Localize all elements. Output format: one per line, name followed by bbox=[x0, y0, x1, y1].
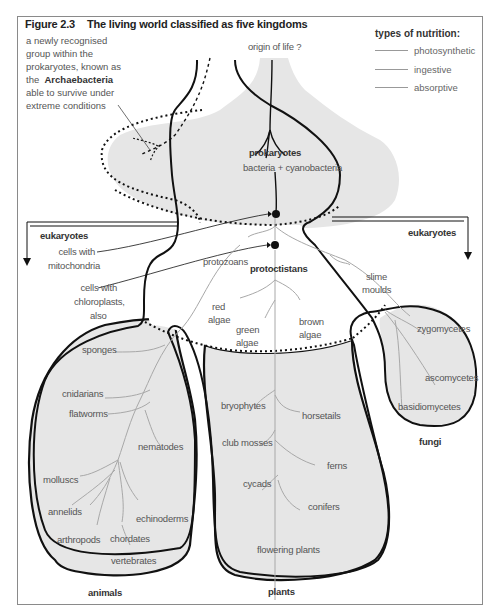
eukaryotes-left-label: eukaryotes bbox=[40, 229, 88, 242]
note-line: prokaryotes, known as bbox=[26, 60, 121, 73]
legend-line-icon bbox=[375, 50, 408, 51]
prokaryotes-label: prokaryotes bbox=[249, 146, 301, 159]
figure-title: Figure 2.3The living world classified as… bbox=[25, 18, 307, 30]
slime-label-1: slime bbox=[366, 270, 387, 283]
legend-item-absorptive: absorptive bbox=[375, 82, 458, 93]
legend-item-ingestive: ingestive bbox=[375, 64, 452, 75]
note-prefix: the bbox=[26, 74, 39, 85]
red-algae-label-1: red bbox=[212, 300, 225, 313]
note-line: group within the bbox=[26, 47, 121, 60]
club-mosses-label: club mosses bbox=[222, 436, 273, 449]
bryophytes-label: bryophytes bbox=[221, 399, 265, 412]
annelids-label: annelids bbox=[48, 505, 82, 518]
echinoderms-label: echinoderms bbox=[136, 512, 188, 525]
eukaryotes-right-label: eukaryotes bbox=[408, 226, 456, 239]
note-line: a newly recognised bbox=[26, 34, 121, 47]
horsetails-label: horsetails bbox=[302, 409, 341, 422]
legend-item-photosynthetic: photosynthetic bbox=[375, 45, 475, 56]
note-line: the Archaebacteria bbox=[26, 73, 121, 86]
legend-label: absorptive bbox=[414, 82, 458, 93]
figure-number: Figure 2.3 bbox=[25, 18, 75, 30]
brown-algae-label-1: brown bbox=[299, 315, 324, 328]
brown-algae-label-2: algae bbox=[299, 328, 321, 341]
chloroplast-node bbox=[271, 241, 279, 249]
origin-label: origin of life ? bbox=[248, 40, 301, 53]
animals-label: animals bbox=[88, 586, 122, 599]
chloroplasts-label-3: also bbox=[90, 309, 107, 322]
mitochondria-label-2: mitochondria bbox=[48, 259, 100, 272]
basidiomycetes-label: basidiomycetes bbox=[398, 400, 461, 413]
archaebacteria-note: a newly recognised group within the prok… bbox=[26, 34, 121, 112]
note-line: able to survive under bbox=[26, 86, 121, 99]
note-line: extreme conditions bbox=[26, 99, 121, 112]
legend-label: photosynthetic bbox=[414, 45, 475, 56]
mitochondria-label-1: cells with bbox=[58, 245, 95, 258]
protozoans-label: protozoans bbox=[203, 255, 248, 268]
molluscs-label: molluscs bbox=[43, 473, 78, 486]
prokaryote-region bbox=[108, 58, 399, 228]
chloroplasts-label-2: chloroplasts, bbox=[74, 295, 120, 308]
conifers-label: conifers bbox=[308, 500, 340, 513]
chordates-label: chordates bbox=[110, 532, 150, 545]
prokaryotes-sub-label: bacteria + cyanobacteria bbox=[243, 161, 342, 174]
figure-title-text: The living world classified as five king… bbox=[87, 18, 307, 30]
mitochondria-node bbox=[272, 210, 280, 218]
zygomycetes-label: zygomycetes bbox=[417, 322, 470, 335]
ascomycetes-label: ascomycetes bbox=[425, 371, 478, 384]
red-algae-label-2: algae bbox=[208, 313, 230, 326]
legend-line-icon bbox=[375, 69, 408, 70]
vertebrates-label: vertebrates bbox=[111, 554, 156, 567]
slime-label-2: moulds bbox=[362, 283, 391, 296]
cycads-label: cycads bbox=[243, 477, 271, 490]
nematodes-label: nematodes bbox=[138, 440, 183, 453]
ferns-label: ferns bbox=[327, 459, 347, 472]
protoctistans-label: protoctistans bbox=[250, 262, 308, 275]
legend-label: ingestive bbox=[414, 64, 452, 75]
fungi-label: fungi bbox=[419, 435, 441, 448]
green-algae-label-1: green bbox=[236, 323, 259, 336]
cnidarians-label: cnidarians bbox=[62, 387, 103, 400]
archaebacteria-label: Archaebacteria bbox=[45, 74, 114, 85]
plants-label: plants bbox=[268, 585, 295, 598]
arthropods-label: arthropods bbox=[57, 533, 100, 546]
flatworms-label: flatworms bbox=[69, 407, 108, 420]
flowering-plants-label: flowering plants bbox=[257, 543, 320, 556]
sponges-label: sponges bbox=[82, 343, 117, 356]
legend-line-icon bbox=[375, 87, 408, 88]
chloroplasts-label-1: cells with bbox=[80, 281, 117, 294]
green-algae-label-2: algae bbox=[236, 336, 258, 349]
legend-title: types of nutrition: bbox=[375, 28, 460, 39]
